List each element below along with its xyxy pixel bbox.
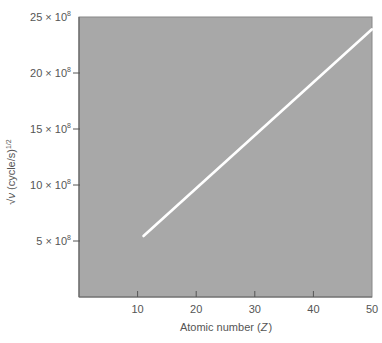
x-tick-label: 40: [307, 303, 319, 315]
y-tick-label: 5 × 108: [36, 234, 71, 247]
y-axis-title: √ν (cycle/s)1/2: [5, 139, 17, 204]
plot-area: [79, 17, 372, 297]
y-tick-label: 20 × 108: [30, 66, 71, 79]
x-axis-title-main: Atomic number (: [180, 321, 261, 333]
y-tick-label: 25 × 108: [30, 10, 71, 23]
x-tick-label: 50: [366, 303, 378, 315]
x-tick-label: 20: [190, 303, 202, 315]
x-axis-title: Atomic number (Z): [180, 321, 272, 333]
y-axis-title-unit: (cycle/s): [5, 149, 17, 193]
y-axis-title-exp: 1/2: [5, 139, 12, 149]
chart: 5 × 10810 × 10815 × 10820 × 10825 × 108 …: [0, 0, 382, 343]
y-axis-ticks: 5 × 10810 × 10815 × 10820 × 10825 × 108: [30, 10, 80, 247]
x-axis-title-var: Z: [260, 321, 269, 333]
x-axis-title-close: ): [268, 321, 272, 333]
y-tick-label: 10 × 108: [30, 178, 71, 191]
x-tick-label: 30: [249, 303, 261, 315]
x-tick-label: 10: [131, 303, 143, 315]
y-tick-label: 15 × 108: [30, 122, 71, 135]
